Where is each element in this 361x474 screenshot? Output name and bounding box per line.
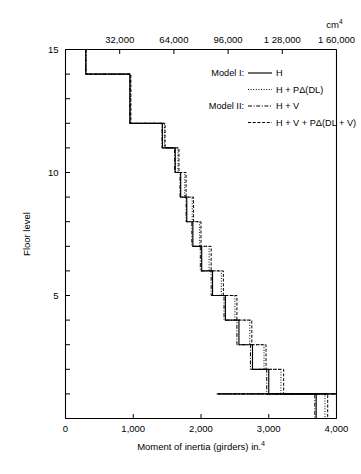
top-tick-label: 32,000 (105, 34, 134, 45)
y-tick-label: 5 (53, 290, 58, 301)
x-tick-label: 2,000 (189, 423, 213, 434)
x-tick-label: 0 (63, 423, 68, 434)
chart-figure: 01,0002,0003,0004,00032,00064,00096,0001… (0, 0, 361, 474)
x-tick-label: 4,000 (325, 423, 349, 434)
legend-entry-label: H + V + PΔ(DL + V) (276, 118, 356, 128)
x-tick-label: 3,000 (257, 423, 281, 434)
legend-group-label: Model I: (211, 68, 244, 78)
legend-entry-label: H + V (276, 101, 300, 111)
top-tick-label: 96,000 (214, 34, 243, 45)
top-tick-label: 1 28,000 (264, 34, 301, 45)
top-tick-label: 1 60,000 (318, 34, 355, 45)
y-axis-title: Floor level (21, 212, 32, 256)
top-axis-unit-label: cm4 (326, 18, 343, 30)
y-tick-label: 15 (48, 44, 59, 55)
legend-entry-label: H (276, 68, 283, 78)
step-chart: 01,0002,0003,0004,00032,00064,00096,0001… (0, 0, 361, 474)
legend-entry-label: H + PΔ(DL) (276, 85, 323, 95)
x-axis-title: Moment of inertia (girders) in.4 (137, 440, 265, 452)
legend-group-label: Model II: (209, 101, 244, 111)
x-tick-label: 1,000 (121, 423, 145, 434)
y-tick-label: 10 (48, 167, 59, 178)
top-tick-label: 64,000 (159, 34, 188, 45)
